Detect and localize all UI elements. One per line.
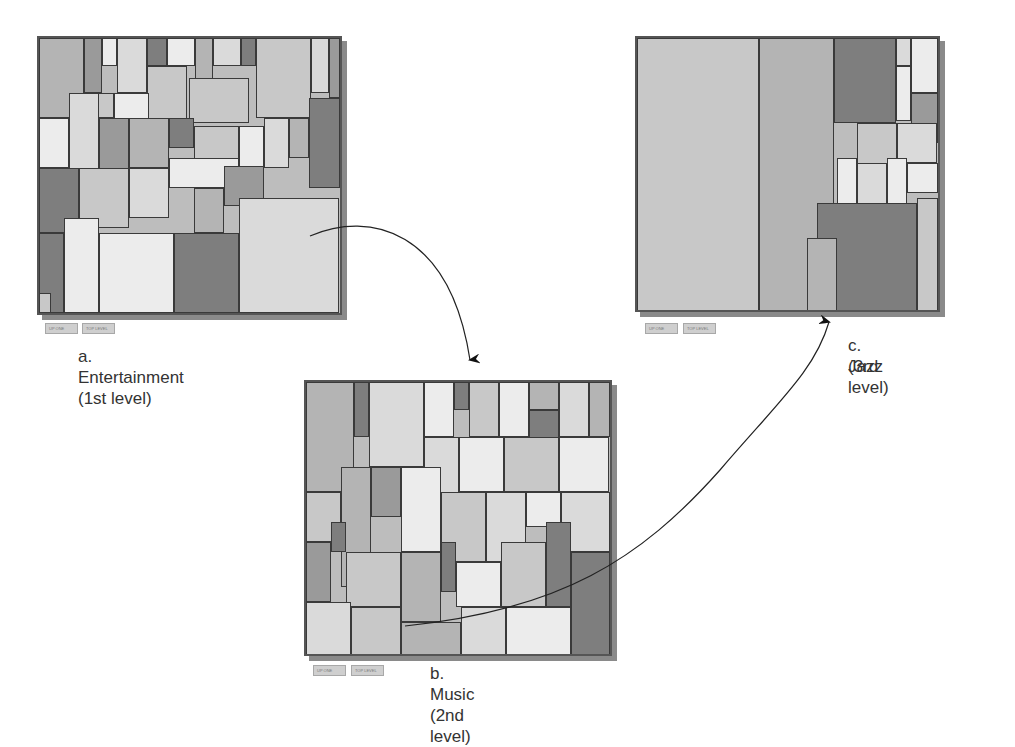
arrow-music-to-jazz (405, 322, 829, 626)
arrow-entertainment-to-music (310, 226, 470, 360)
